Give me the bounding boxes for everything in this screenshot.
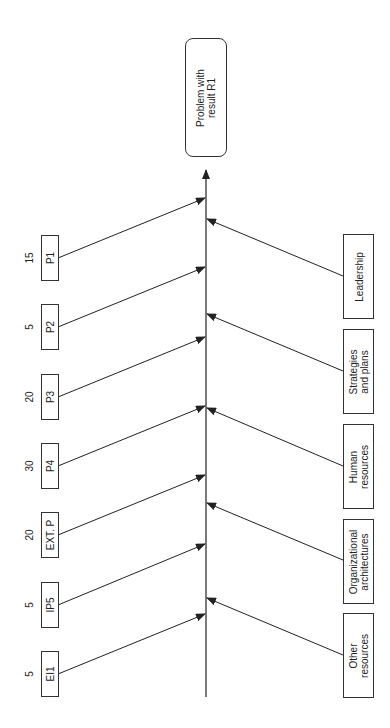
arrow-leadership: [207, 219, 343, 276]
cause-box-ip5: IP5: [41, 582, 59, 628]
cause-box-p1: P1: [41, 235, 59, 281]
cause-label: P1: [45, 252, 56, 264]
effect-label: Problem with result R1: [195, 69, 217, 127]
category-box-strategies: Strategies and plans: [343, 329, 374, 414]
cause-box-ei1: EI1: [41, 651, 59, 697]
category-label: Human resources: [348, 445, 370, 489]
cause-label: EI1: [45, 666, 56, 681]
arrow-p3: [58, 337, 205, 397]
arrow-p1: [58, 198, 205, 258]
cause-value: 5: [24, 602, 35, 608]
arrow-other: [207, 598, 343, 655]
cause-label: P3: [45, 391, 56, 403]
cause-value: 20: [24, 391, 35, 402]
cause-box-p2: P2: [41, 304, 59, 350]
arrow-ei1: [58, 614, 205, 674]
category-label: Other resources: [348, 634, 370, 678]
cause-label: P2: [45, 321, 56, 333]
cause-box-ext-p: EXT. P: [41, 512, 59, 558]
category-box-leadership: Leadership: [343, 234, 374, 319]
cause-value: 15: [24, 252, 35, 263]
category-label: Leadership: [353, 252, 364, 301]
cause-box-p3: P3: [41, 374, 59, 420]
cause-value: 5: [24, 671, 35, 677]
category-label: Strategies and plans: [348, 349, 370, 394]
category-label: Organizational architectures: [348, 529, 370, 593]
cause-box-p4: P4: [41, 443, 59, 489]
effect-box: Problem with result R1: [185, 38, 227, 157]
arrow-ip5: [58, 544, 205, 605]
arrow-p4: [58, 406, 205, 466]
cause-label: P4: [45, 460, 56, 472]
cause-label: IP5: [45, 597, 56, 612]
cause-value: 30: [24, 460, 35, 471]
cause-value: 5: [24, 324, 35, 330]
arrow-ext-p: [58, 475, 205, 535]
category-box-org-architectures: Organizational architectures: [343, 519, 374, 604]
arrow-strategies: [207, 314, 343, 371]
cause-label: EXT. P: [45, 520, 56, 551]
arrow-p2: [58, 267, 205, 327]
cause-value: 20: [24, 529, 35, 540]
category-box-other-resources: Other resources: [343, 613, 374, 698]
category-box-human-resources: Human resources: [343, 424, 374, 509]
arrow-human: [207, 408, 343, 466]
arrow-org: [207, 503, 343, 560]
